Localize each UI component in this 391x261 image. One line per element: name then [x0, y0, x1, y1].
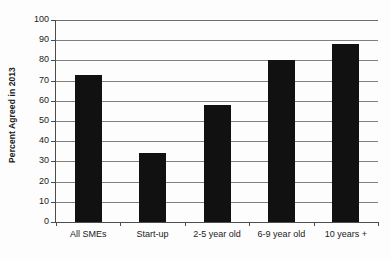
- gridline: [56, 20, 378, 21]
- bar: [75, 75, 102, 222]
- x-axis-tick-mark: [314, 222, 315, 226]
- x-axis-tick-label: 10 years +: [314, 230, 378, 240]
- y-axis-tick-label: 20: [3, 177, 49, 186]
- bar: [268, 60, 295, 222]
- y-axis-tick-label: 100: [3, 15, 49, 24]
- y-axis-tick-label: 40: [3, 136, 49, 145]
- x-axis-tick-mark: [56, 222, 57, 226]
- y-axis-tick-mark: [51, 81, 55, 82]
- gridline: [56, 40, 378, 41]
- bar-chart: Percent Agreed in 2013 01020304050607080…: [0, 0, 391, 261]
- bar: [332, 44, 359, 222]
- y-axis-tick-label: 90: [3, 35, 49, 44]
- x-axis-tick-mark: [120, 222, 121, 226]
- y-axis-tick-mark: [51, 60, 55, 61]
- y-axis-tick-mark: [51, 202, 55, 203]
- plot-area: [56, 20, 378, 222]
- x-axis-tick-marks: [56, 222, 378, 227]
- gridline: [56, 60, 378, 61]
- x-axis-tick-label: All SMEs: [56, 230, 120, 240]
- y-axis-tick-mark: [51, 222, 55, 223]
- x-axis-tick-mark: [249, 222, 250, 226]
- bar: [204, 105, 231, 222]
- y-axis-tick-labels: 0102030405060708090100: [0, 0, 49, 261]
- y-axis-tick-label: 50: [3, 116, 49, 125]
- y-axis-tick-mark: [51, 161, 55, 162]
- y-axis-tick-mark: [51, 20, 55, 21]
- y-axis-tick-label: 30: [3, 156, 49, 165]
- y-axis-tick-mark: [51, 141, 55, 142]
- y-axis-tick-mark: [51, 182, 55, 183]
- y-axis-tick-mark: [51, 40, 55, 41]
- y-axis-tick-label: 80: [3, 55, 49, 64]
- y-axis-tick-label: 10: [3, 197, 49, 206]
- x-axis-tick-labels: All SMEsStart-up2-5 year old6-9 year old…: [56, 230, 378, 246]
- y-axis-tick-label: 0: [3, 217, 49, 226]
- x-axis-tick-mark: [378, 222, 379, 226]
- x-axis-tick-mark: [185, 222, 186, 226]
- bar: [139, 153, 166, 222]
- gridline: [56, 101, 378, 102]
- y-axis-tick-mark: [51, 101, 55, 102]
- y-axis-tick-label: 60: [3, 96, 49, 105]
- x-axis-tick-label: Start-up: [120, 230, 184, 240]
- gridline: [56, 81, 378, 82]
- y-axis-tick-label: 70: [3, 76, 49, 85]
- x-axis-tick-label: 2-5 year old: [185, 230, 249, 240]
- y-axis-tick-mark: [51, 121, 55, 122]
- x-axis-tick-label: 6-9 year old: [249, 230, 313, 240]
